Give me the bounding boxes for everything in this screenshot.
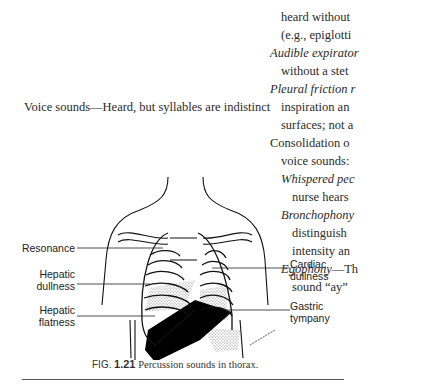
term-line: Audible expirator <box>270 44 359 62</box>
text-line: surfaces; not a <box>281 116 353 134</box>
caption-divider <box>22 379 344 380</box>
label-line: Hepatic <box>0 268 75 280</box>
term-line: Pleural friction r <box>270 80 355 98</box>
text-line: distinguish <box>292 224 347 242</box>
text-line: without a stet <box>281 62 348 80</box>
caption-text: Percussion sounds in thorax. <box>138 359 258 370</box>
text-line: inspiration an <box>281 98 349 116</box>
label-resonance: Resonance <box>0 242 75 254</box>
caption-prefix: FIG. <box>92 359 111 370</box>
label-line: tympany <box>290 312 330 324</box>
text-line: (e.g., epiglotti <box>281 26 351 44</box>
label-line: Hepatic <box>0 304 75 316</box>
label-line: Gastric <box>290 300 330 312</box>
text-line: nurse hears <box>292 188 349 206</box>
label-hepatic-flatness: Hepatic flatness <box>0 304 75 328</box>
label-line: dullness <box>0 280 75 292</box>
term-rest: —Th <box>332 262 358 276</box>
text-line: heard without <box>281 8 350 26</box>
term: Audible expirator <box>270 46 359 60</box>
label-cardiac-dullness: Cardiac dullness <box>290 258 329 282</box>
term: Pleural friction r <box>270 82 355 96</box>
label-hepatic-dullness: Hepatic dullness <box>0 268 75 292</box>
label-line: Cardiac <box>290 258 329 270</box>
caption-number: 1.21 <box>114 358 135 370</box>
voice-sounds-text: Voice sounds—Heard, but syllables are in… <box>24 100 270 115</box>
figure-caption: FIG. 1.21 Percussion sounds in thorax. <box>92 358 258 370</box>
label-line: flatness <box>0 316 75 328</box>
label-gastric-tympany: Gastric tympany <box>290 300 330 324</box>
label-line: dullness <box>290 270 329 282</box>
thorax-figure: Resonance Hepatic dullness Hepatic flatn… <box>0 140 300 360</box>
